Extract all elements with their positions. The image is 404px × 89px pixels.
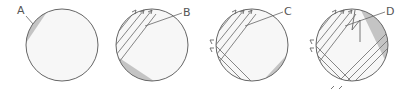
panel-b: B xyxy=(100,0,201,89)
panel-a: A xyxy=(0,0,101,89)
panel-d: D xyxy=(300,0,401,89)
circle-a-graphic xyxy=(0,0,101,89)
label-b: B xyxy=(183,7,191,18)
label-d: D xyxy=(386,6,394,17)
label-a: A xyxy=(17,5,25,16)
panel-c: C xyxy=(200,0,301,89)
label-c: C xyxy=(284,6,292,17)
